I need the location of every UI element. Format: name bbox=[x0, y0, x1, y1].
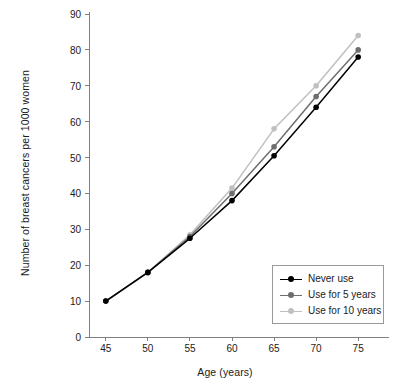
y-tick-label: 30 bbox=[70, 224, 81, 235]
y-tick-label: 80 bbox=[70, 44, 81, 55]
legend-item-use-for-5-years: Use for 5 years bbox=[273, 287, 383, 303]
x-axis-title: Age (years) bbox=[60, 366, 390, 378]
y-tick-label: 10 bbox=[70, 296, 81, 307]
legend-marker-icon bbox=[280, 305, 302, 317]
x-tick-label: 45 bbox=[100, 343, 111, 354]
legend-label: Use for 10 years bbox=[308, 305, 381, 317]
y-tick-label: 20 bbox=[70, 260, 81, 271]
x-tick-label: 65 bbox=[268, 343, 279, 354]
y-tick-label: 0 bbox=[75, 332, 81, 343]
legend-marker-icon bbox=[280, 273, 302, 285]
x-tick-label: 50 bbox=[142, 343, 153, 354]
y-axis-title: Number of breast cancers per 1000 women bbox=[16, 3, 34, 343]
chart-legend: Never use Use for 5 years Use for 10 yea… bbox=[272, 265, 384, 324]
legend-marker-icon bbox=[280, 289, 302, 301]
y-tick-label: 70 bbox=[70, 80, 81, 91]
legend-label: Never use bbox=[308, 273, 354, 285]
legend-item-use-for-10-years: Use for 10 years bbox=[273, 303, 383, 319]
y-tick-label: 50 bbox=[70, 152, 81, 163]
breast-cancer-incidence-chart: Number of breast cancers per 1000 women … bbox=[0, 0, 395, 392]
legend-item-never-use: Never use bbox=[273, 271, 383, 287]
x-tick-label: 55 bbox=[184, 343, 195, 354]
x-tick-label: 70 bbox=[311, 343, 322, 354]
y-tick-label: 90 bbox=[70, 9, 81, 20]
legend-label: Use for 5 years bbox=[308, 289, 376, 301]
y-tick-label: 40 bbox=[70, 188, 81, 199]
x-tick-label: 75 bbox=[353, 343, 364, 354]
y-tick-label: 60 bbox=[70, 116, 81, 127]
x-tick-label: 60 bbox=[226, 343, 237, 354]
series-use-for-10-years bbox=[103, 33, 361, 304]
